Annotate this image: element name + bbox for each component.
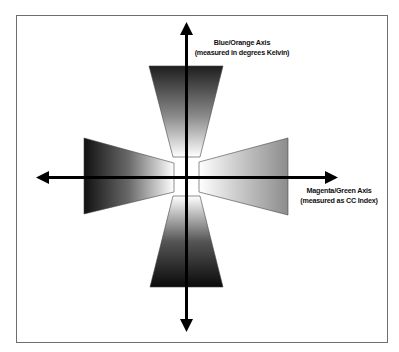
color-axes-diagram: Blue/Orange Axis (measured in degrees Ke… xyxy=(0,0,399,352)
vertical-axis-label-line1: Blue/Orange Axis xyxy=(214,38,271,47)
horizontal-axis-label-line2: (measured as CC Index) xyxy=(300,196,378,205)
horizontal-axis-label-line1: Magenta/Green Axis xyxy=(306,186,371,195)
vertical-axis-label-line2: (measured in degrees Kelvin) xyxy=(195,48,290,57)
